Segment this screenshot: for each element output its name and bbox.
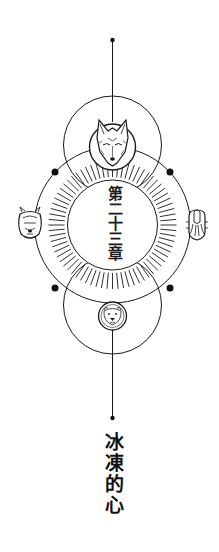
ring-dot-bottom-left — [52, 285, 59, 292]
wolf-icon — [90, 120, 136, 170]
ring-dot-top-right — [167, 169, 174, 176]
chapter-label: 第二十三章 — [101, 186, 123, 261]
chapter-title: 冰凍的心 — [99, 432, 125, 516]
lion-icon — [19, 207, 42, 238]
ring-dot-bottom-right — [167, 285, 174, 292]
top-end-dot — [110, 38, 114, 42]
kraken-icon — [186, 210, 208, 240]
ring-dot-top-left — [52, 169, 59, 176]
bear-icon — [99, 302, 127, 330]
bottom-end-dot — [110, 416, 114, 420]
